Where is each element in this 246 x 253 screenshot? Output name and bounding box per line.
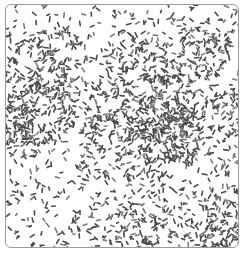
image-frame: [5, 4, 239, 248]
speck-texture-canvas: [6, 5, 239, 248]
